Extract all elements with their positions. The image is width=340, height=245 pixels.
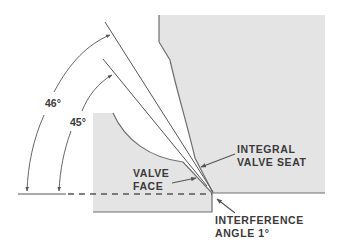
angle-arc-46 [54, 35, 110, 92]
valve-seat-label-line2: VALVE SEAT [237, 156, 307, 168]
angle-arc-46-lower [27, 115, 44, 191]
valve-seat-label-line1: INTEGRAL [237, 143, 295, 155]
interference-leader [217, 199, 235, 213]
angle-arc-45-lower [59, 131, 71, 191]
angle-arc-45 [82, 75, 112, 111]
angle-label-45: 45° [70, 116, 86, 128]
interference-label-line1: INTERFERENCE [215, 214, 304, 226]
valve-face-label-line2: FACE [133, 180, 163, 192]
valve-seat-diagram [0, 0, 340, 245]
angle-label-46: 46° [45, 97, 61, 109]
valve-face-label-line1: VALVE [133, 167, 169, 179]
interference-label-line2: ANGLE 1° [215, 227, 270, 239]
